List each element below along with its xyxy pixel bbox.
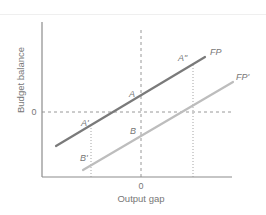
- y-zero-tick: 0: [31, 107, 36, 117]
- point-b-prime-label: B': [80, 153, 88, 163]
- point-b-label: B: [130, 126, 136, 136]
- fp-label: FP: [210, 47, 222, 57]
- fp-prime-line: [83, 82, 233, 170]
- point-a-prime-label: A': [80, 118, 89, 128]
- fiscal-policy-diagram: 0 0 Output gap Budget balance FP FP' A A…: [0, 0, 266, 215]
- point-a-label: A: [128, 89, 135, 99]
- y-axis-title: Budget balance: [15, 47, 26, 113]
- x-axis-title: Output gap: [117, 193, 164, 204]
- point-a-double-prime-label: A": [177, 53, 188, 63]
- fp-prime-label: FP': [236, 72, 250, 82]
- x-zero-tick: 0: [138, 181, 143, 191]
